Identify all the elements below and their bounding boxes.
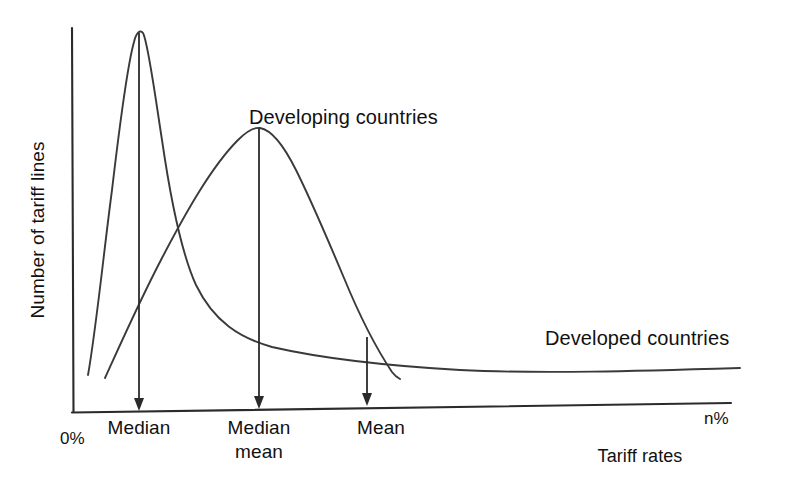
developed-countries-curve [88, 31, 740, 375]
tick-label-mean-developing: mean [235, 441, 283, 462]
median-mean-arrowhead [254, 396, 264, 409]
developing-countries-curve [105, 128, 400, 379]
x-axis-start-label: 0% [60, 429, 85, 448]
x-axis-title: Tariff rates [598, 446, 683, 466]
annotation-median-mean-developing [254, 128, 264, 409]
x-axis-line [72, 403, 731, 413]
tick-label-median-developed: Median [108, 417, 171, 438]
tariff-distribution-chart: Number of tariff lines Developing countr… [0, 0, 807, 489]
y-axis-title: Number of tariff lines [27, 141, 48, 318]
developing-countries-label: Developing countries [249, 106, 438, 128]
tick-label-median-developing: Median [228, 417, 291, 438]
developed-countries-label: Developed countries [545, 327, 729, 349]
chart-container: Number of tariff lines Developing countr… [0, 0, 807, 489]
y-axis-line [72, 28, 74, 412]
median-developed-arrowhead [134, 398, 144, 411]
x-axis-end-label: n% [704, 409, 729, 428]
annotation-median-developed [134, 33, 144, 411]
tick-label-mean-developed: Mean [357, 417, 405, 438]
annotation-mean-developed [362, 337, 372, 406]
mean-arrowhead [362, 393, 372, 406]
